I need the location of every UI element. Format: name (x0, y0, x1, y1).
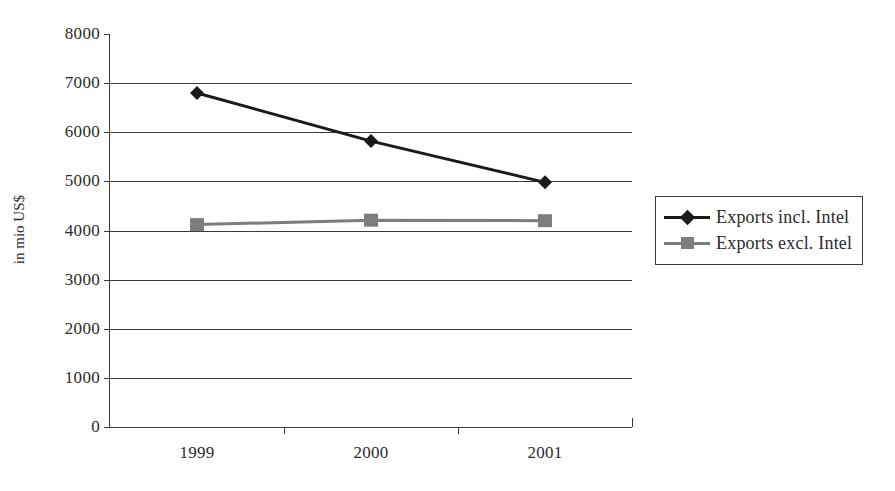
chart-page: in mio US$ 01000200030004000500060007000… (0, 0, 895, 491)
chart-legend: Exports incl. Intel Exports excl. Intel (655, 196, 863, 265)
x-axis-end-tick (632, 418, 633, 427)
square-marker[interactable] (190, 218, 204, 231)
y-tick-label-5000: 5000 (65, 171, 100, 191)
y-tick-label-7000: 7000 (65, 73, 100, 93)
y-tick-label-2000: 2000 (65, 319, 100, 339)
gridline-0 (110, 427, 632, 428)
x-tick-label-2000: 2000 (353, 443, 388, 463)
y-tick-label-4000: 4000 (65, 221, 100, 241)
series-layer (110, 34, 632, 427)
square-marker[interactable] (538, 214, 552, 227)
x-tick-label-1999: 1999 (179, 443, 214, 463)
y-tick-0 (104, 427, 110, 428)
square-marker[interactable] (364, 214, 378, 227)
legend-item-exports-incl-intel[interactable]: Exports incl. Intel (664, 204, 852, 230)
y-tick-label-3000: 3000 (65, 270, 100, 290)
y-axis-tick-labels: 010002000300040005000600070008000 (26, 34, 100, 427)
diamond-marker-key (664, 208, 710, 226)
x-tick-label-2001: 2001 (527, 443, 562, 463)
legend-label-1: Exports excl. Intel (716, 233, 852, 254)
y-tick-label-1000: 1000 (65, 368, 100, 388)
y-tick-label-6000: 6000 (65, 122, 100, 142)
diamond-marker[interactable] (190, 86, 204, 100)
legend-item-exports-excl-intel[interactable]: Exports excl. Intel (664, 230, 852, 256)
legend-label-0: Exports incl. Intel (716, 207, 849, 228)
plot-area (110, 34, 632, 427)
diamond-marker[interactable] (538, 175, 552, 189)
y-tick-label-8000: 8000 (65, 24, 100, 44)
diamond-marker[interactable] (364, 134, 378, 148)
x-tick-1 (284, 427, 285, 434)
series-excl-intel (190, 214, 552, 231)
series-incl-intel (190, 86, 552, 189)
square-marker-key (664, 234, 710, 252)
x-tick-2 (458, 427, 459, 434)
y-tick-label-0: 0 (91, 417, 100, 437)
